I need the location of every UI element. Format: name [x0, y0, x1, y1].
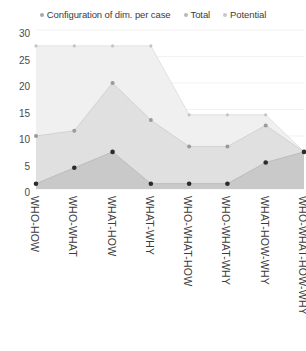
area-chart: Configuration of dim. per case Total Pot… — [0, 0, 306, 351]
x-axis: WHO-HOWWHO-WHATWHAT-HOWWHAT-WHYWHO-WHAT-… — [36, 196, 304, 346]
data-point[interactable] — [34, 44, 37, 47]
legend-item-configuration[interactable]: Configuration of dim. per case — [40, 9, 171, 20]
x-tick-label: WHO-WHAT-HOW-WHY — [297, 196, 306, 315]
x-tick-label: WHAT-HOW — [106, 196, 117, 256]
legend-item-potential[interactable]: Potential — [223, 9, 266, 20]
data-point[interactable] — [110, 150, 115, 155]
data-point[interactable] — [149, 44, 152, 47]
plot-area — [0, 26, 306, 193]
legend-item-total[interactable]: Total — [184, 9, 211, 20]
legend-label-configuration: Configuration of dim. per case — [47, 9, 171, 20]
data-point[interactable] — [226, 113, 229, 116]
data-point[interactable] — [188, 113, 191, 116]
data-point[interactable] — [225, 181, 230, 186]
x-tick-label: WHO-WHAT-HOW — [182, 196, 193, 286]
data-point[interactable] — [225, 145, 229, 149]
data-point[interactable] — [264, 123, 268, 127]
data-point[interactable] — [149, 181, 154, 186]
data-point[interactable] — [73, 44, 76, 47]
data-point[interactable] — [187, 145, 191, 149]
legend-label-potential: Potential — [230, 9, 266, 20]
x-tick-label: WHO-WHAT-WHY — [220, 196, 231, 285]
data-point[interactable] — [34, 134, 38, 138]
data-point[interactable] — [111, 81, 115, 85]
x-tick-label: WHAT-WHY — [144, 196, 155, 255]
chart-legend: Configuration of dim. per case Total Pot… — [0, 9, 306, 20]
legend-marker-configuration — [40, 13, 44, 17]
plot-svg — [0, 26, 306, 193]
x-tick-label: WHAT-HOW-WHY — [259, 196, 270, 285]
legend-marker-potential — [223, 13, 227, 17]
x-tick-label: WHO-WHAT — [67, 196, 78, 257]
data-point[interactable] — [34, 181, 39, 186]
legend-marker-total — [184, 13, 188, 17]
data-point[interactable] — [72, 129, 76, 133]
data-point[interactable] — [72, 166, 77, 171]
legend-label-total: Total — [191, 9, 211, 20]
data-point[interactable] — [111, 44, 114, 47]
data-point[interactable] — [187, 181, 192, 186]
data-point[interactable] — [149, 118, 153, 122]
data-point[interactable] — [263, 160, 268, 165]
x-tick-label: WHO-HOW — [29, 196, 40, 252]
data-point[interactable] — [264, 113, 267, 116]
